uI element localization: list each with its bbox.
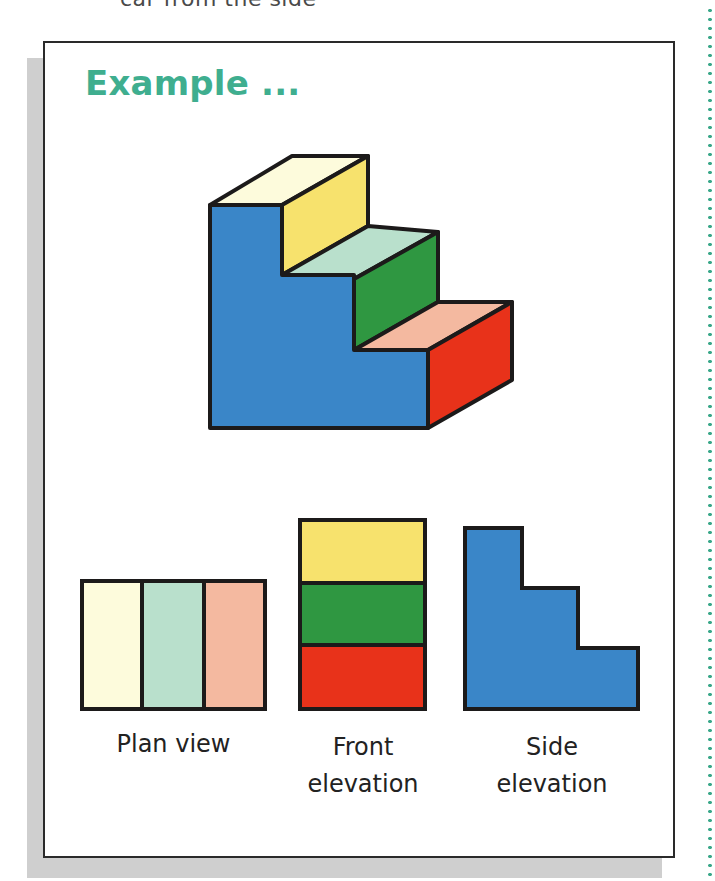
side-elevation-view: [465, 528, 638, 709]
front-elevation-label: Front elevation: [282, 729, 444, 803]
plan-view-label: Plan view: [82, 726, 265, 763]
side-elevation-label: Side elevation: [470, 729, 634, 803]
plan-view: [82, 581, 265, 709]
front-elevation-view: [300, 520, 425, 709]
